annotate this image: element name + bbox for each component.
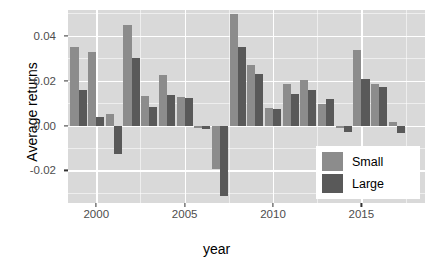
bar-large-2010 (273, 109, 281, 125)
y-tick-mark (64, 125, 68, 126)
x-tick-mark (184, 203, 185, 207)
x-tick-mark (96, 203, 97, 207)
bar-small-2017 (389, 122, 397, 126)
bar-large-2009 (255, 74, 263, 126)
bar-small-2008 (230, 14, 238, 125)
legend-label-large: Large (352, 177, 384, 191)
legend-swatch-large-icon (322, 174, 343, 193)
bar-small-2015 (353, 50, 361, 125)
bar-large-2003 (149, 107, 157, 126)
bar-large-2014 (344, 126, 352, 133)
y-tick-label: 0.00 (34, 120, 56, 132)
bar-large-2007 (220, 126, 228, 196)
y-axis-title: Average returns (24, 12, 40, 212)
bar-chart: Average returns 0.040.020.00-0.02 200020… (0, 0, 433, 259)
bar-small-2004 (159, 75, 167, 125)
bar-small-2014 (336, 126, 344, 129)
bar-large-2016 (379, 87, 387, 125)
bar-small-2011 (283, 84, 291, 126)
y-tick-mark (64, 35, 68, 36)
bar-small-2002 (123, 25, 131, 126)
bar-large-2017 (397, 126, 405, 134)
x-tick-label: 2005 (172, 208, 198, 220)
x-tick-mark (361, 203, 362, 207)
legend-swatch-small-icon (322, 152, 343, 171)
bar-small-2000 (88, 52, 96, 126)
bar-small-2010 (265, 108, 273, 126)
bar-small-2005 (177, 97, 185, 126)
x-tick-mark (272, 203, 273, 207)
x-axis-title: year (0, 241, 433, 257)
bar-large-2004 (167, 95, 175, 126)
gridline-vertical-major (96, 10, 97, 203)
bar-large-2006 (202, 126, 210, 129)
bar-small-2012 (300, 80, 308, 126)
bar-large-2011 (291, 94, 299, 126)
x-tick-label: 2010 (260, 208, 286, 220)
bar-small-2016 (371, 84, 379, 126)
bar-large-2013 (326, 99, 334, 125)
gridline-vertical-major (273, 10, 274, 203)
bar-small-2001 (106, 114, 114, 125)
y-tick-mark (64, 170, 68, 171)
bar-small-2013 (318, 104, 326, 126)
x-tick-label: 2015 (349, 208, 375, 220)
bar-small-2003 (141, 96, 149, 125)
chart-legend: Small Large (316, 146, 420, 199)
y-tick-label: 0.02 (34, 75, 56, 87)
bar-small-2009 (247, 65, 255, 126)
y-tick-mark (64, 80, 68, 81)
legend-label-small: Small (352, 155, 383, 169)
bar-large-2002 (132, 58, 140, 125)
bar-large-2001 (114, 126, 122, 154)
bar-large-2008 (238, 47, 246, 126)
bar-large-2000 (96, 117, 104, 126)
bar-large-1999 (79, 90, 87, 126)
y-tick-label: 0.04 (34, 30, 56, 42)
gridline-horizontal-minor (68, 13, 425, 14)
bar-small-2006 (194, 126, 202, 129)
legend-item-small[interactable]: Small (322, 151, 420, 173)
bar-small-1999 (70, 47, 78, 126)
y-tick-label: -0.02 (30, 164, 56, 176)
x-tick-label: 2000 (83, 208, 109, 220)
gridline-horizontal-major (68, 36, 425, 37)
legend-item-large[interactable]: Large (322, 173, 420, 195)
bar-large-2005 (185, 98, 193, 126)
bar-large-2015 (361, 79, 369, 126)
gridline-horizontal-minor (68, 58, 425, 59)
bar-large-2012 (308, 90, 316, 125)
bar-small-2007 (212, 126, 220, 170)
